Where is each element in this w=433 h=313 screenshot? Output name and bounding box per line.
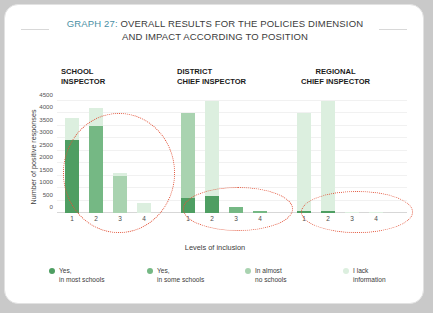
bar-segment [65, 140, 79, 213]
x-axis-tick-label: 4 [253, 215, 267, 222]
bar-segment [253, 211, 267, 213]
y-axis-tick-label: 1500 [23, 166, 53, 173]
bar-group: 1234 [177, 101, 277, 213]
bar[interactable] [369, 212, 383, 213]
y-axis-tick-label: 2500 [23, 141, 53, 148]
chart-legend: Yes, in most schoolsYes, in some schools… [49, 267, 399, 293]
legend-label: Yes, in some schools [157, 267, 204, 284]
bar-segment [345, 212, 359, 213]
bar[interactable] [113, 173, 127, 213]
y-axis-tick-label: 1000 [23, 178, 53, 185]
graph-number: GRAPH 27: [67, 18, 118, 29]
x-axis-tick-label: 3 [345, 215, 359, 222]
bar-segment [181, 113, 195, 198]
bar-group: 1234 [293, 101, 393, 213]
bar[interactable] [229, 207, 243, 213]
x-axis-tick-label: 2 [321, 215, 335, 222]
legend-swatch-icon [343, 268, 349, 274]
bar[interactable] [181, 113, 195, 213]
bar-segment [205, 196, 219, 213]
y-axis-tick-label: 3500 [23, 116, 53, 123]
title-line-1: OVERALL RESULTS FOR THE POLICIES DIMENSI… [121, 18, 364, 29]
x-axis-tick-label: 3 [113, 215, 127, 222]
bar-segment [113, 176, 127, 213]
legend-item[interactable]: In almost no schools [245, 267, 287, 284]
x-axis-tick-label: 1 [297, 215, 311, 222]
legend-item[interactable]: Yes, in some schools [147, 267, 204, 284]
x-axis-title: Levels of inclusion [5, 243, 424, 252]
bar-segment [321, 211, 335, 213]
bar-segment [137, 203, 151, 213]
legend-swatch-icon [49, 268, 55, 274]
plot-area: 0500100015002000250030003500400045001234… [57, 101, 407, 213]
legend-item[interactable]: Yes, in most schools [49, 267, 104, 284]
bar[interactable] [253, 211, 267, 213]
bar[interactable] [297, 113, 311, 213]
legend-label: I lack information [353, 267, 386, 284]
y-axis-tick-label: 3000 [23, 128, 53, 135]
x-axis-tick-label: 2 [205, 215, 219, 222]
graph-card: GRAPH 27: OVERALL RESULTS FOR THE POLICI… [4, 4, 424, 304]
y-axis-tick-label: 4500 [23, 91, 53, 98]
x-axis-tick-label: 3 [229, 215, 243, 222]
x-axis-tick-label: 1 [181, 215, 195, 222]
bar-segment [297, 113, 311, 210]
page-title: GRAPH 27: OVERALL RESULTS FOR THE POLICI… [5, 17, 424, 43]
bar[interactable] [137, 203, 151, 213]
bar-segment [229, 207, 243, 213]
bar-segment [89, 108, 103, 125]
legend-swatch-icon [147, 268, 153, 274]
bar-segment [369, 212, 383, 213]
bar-segment [181, 198, 195, 213]
bar-group: 1234 [61, 101, 161, 213]
bar[interactable] [345, 212, 359, 213]
x-axis-tick-label: 1 [65, 215, 79, 222]
x-axis-tick-label: 2 [89, 215, 103, 222]
x-axis-tick-label: 4 [137, 215, 151, 222]
group-header: DISTRICT CHIEF INSPECTOR [177, 67, 246, 87]
legend-swatch-icon [245, 268, 251, 274]
legend-item[interactable]: I lack information [343, 267, 386, 284]
legend-label: In almost no schools [255, 267, 287, 284]
y-axis-tick-label: 500 [23, 191, 53, 198]
y-axis-tick-label: 0 [23, 203, 53, 210]
bar-segment [65, 118, 79, 139]
y-axis-tick-label: 4000 [23, 103, 53, 110]
bar[interactable] [205, 101, 219, 213]
title-line-2: AND IMPACT ACCORDING TO POSITION [122, 31, 308, 42]
bar-segment [297, 211, 311, 213]
y-axis-tick-label: 2000 [23, 153, 53, 160]
x-axis-tick-label: 4 [369, 215, 383, 222]
bar[interactable] [89, 108, 103, 213]
legend-label: Yes, in most schools [59, 267, 104, 284]
bar[interactable] [65, 118, 79, 213]
group-header: REGIONAL CHIEF INSPECTOR [301, 67, 370, 87]
bar[interactable] [321, 101, 335, 213]
group-header: SCHOOL INSPECTOR [61, 67, 105, 87]
bar-segment [89, 126, 103, 213]
bar-segment [205, 101, 219, 196]
bar-segment [321, 101, 335, 211]
